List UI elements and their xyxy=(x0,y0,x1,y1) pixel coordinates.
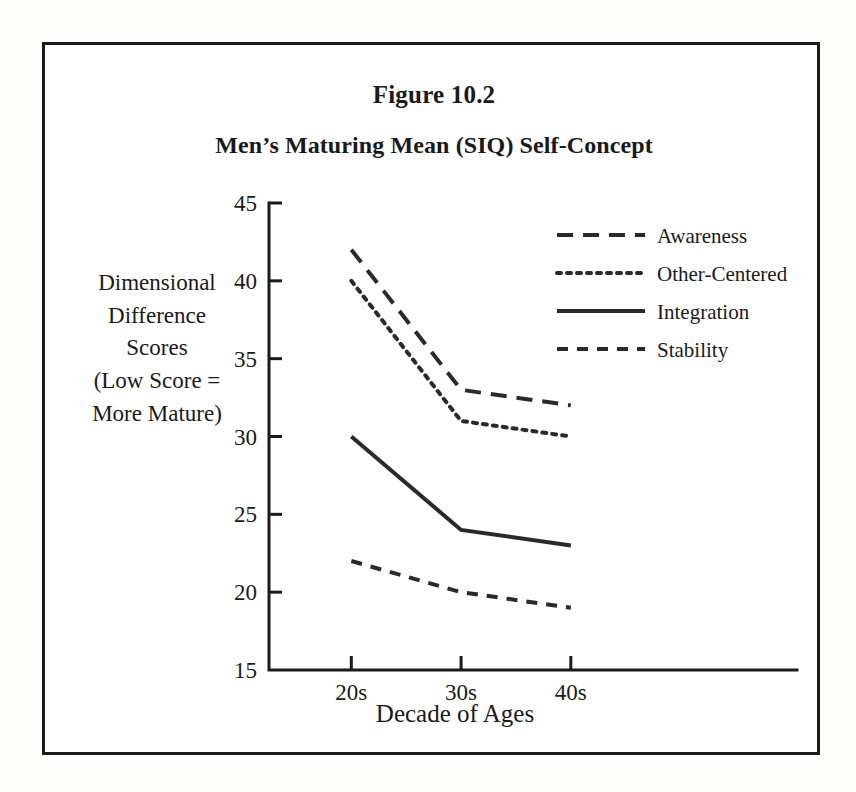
series-line-stability xyxy=(351,561,571,608)
x-axis-ticks: 20s30s40s xyxy=(335,656,587,705)
legend-label-other-centered: Other-Centered xyxy=(657,262,788,286)
x-tick-label: 20s xyxy=(335,680,367,705)
y-tick-label: 25 xyxy=(234,502,257,527)
y-tick-label: 15 xyxy=(234,658,257,683)
plot-area: 15202530354045 20s30s40s AwarenessOther-… xyxy=(45,45,823,758)
series-lines xyxy=(351,250,571,608)
y-tick-label: 20 xyxy=(234,580,257,605)
legend-label-integration: Integration xyxy=(657,300,750,324)
y-tick-label: 35 xyxy=(234,347,257,372)
x-tick-label: 30s xyxy=(445,680,477,705)
y-tick-label: 45 xyxy=(234,191,257,216)
y-axis-ticks: 15202530354045 xyxy=(234,191,282,683)
y-tick-label: 30 xyxy=(234,425,257,450)
x-tick-label: 40s xyxy=(555,680,587,705)
figure-root: Figure 10.2 Men’s Maturing Mean (SIQ) Se… xyxy=(0,0,856,792)
legend-label-stability: Stability xyxy=(657,338,729,362)
series-line-other-centered xyxy=(351,281,571,437)
chart-legend: AwarenessOther-CenteredIntegrationStabil… xyxy=(557,224,788,362)
figure-frame: Figure 10.2 Men’s Maturing Mean (SIQ) Se… xyxy=(42,42,820,755)
series-line-awareness xyxy=(351,250,571,406)
y-tick-label: 40 xyxy=(234,269,257,294)
legend-label-awareness: Awareness xyxy=(657,224,747,248)
series-line-integration xyxy=(351,437,571,546)
